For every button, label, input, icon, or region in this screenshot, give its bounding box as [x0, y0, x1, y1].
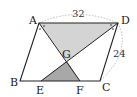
label-D: D	[121, 14, 130, 27]
measurement-AD: 32	[72, 8, 85, 19]
label-E: E	[36, 84, 44, 97]
label-A: A	[28, 14, 38, 27]
label-G: G	[62, 48, 71, 61]
label-C: C	[102, 81, 110, 94]
label-F: F	[76, 84, 84, 97]
triangle-ADG-shaded	[39, 23, 118, 61]
measurement-DC: 24	[113, 48, 126, 59]
triangle-EFG-shaded	[41, 61, 80, 81]
geometry-diagram: A D B C E F G 32 24	[0, 0, 137, 97]
label-B: B	[10, 76, 18, 89]
